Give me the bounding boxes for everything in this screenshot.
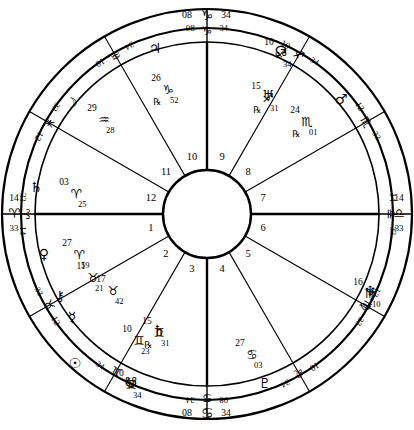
cusp-sign-glyph-house-4: ♋ <box>202 391 213 405</box>
planet-retrograde-saturn2: ℞ <box>144 340 152 350</box>
house-number-2: 2 <box>163 248 168 259</box>
planet-glyph-mars: ♂ <box>335 91 348 107</box>
planet-glyph-mercury: ☿ <box>68 309 77 325</box>
planet-minute-neptune: 10 <box>372 299 381 309</box>
planet-degree-jupiter: 26 <box>151 73 161 83</box>
house-number-4: 4 <box>219 263 225 274</box>
cusp-minute-house-4: 34 <box>185 395 194 405</box>
cusp-degree-house-10: 08 <box>186 23 196 33</box>
planet-minute-northnode: 34 <box>283 59 292 69</box>
planet-glyph-pluto: ♇ <box>259 375 272 391</box>
angle-degree-ascendant: 14 <box>9 193 19 203</box>
planet-retrograde-uranus: ℞ <box>253 105 261 115</box>
planet-degree-saturn: 03 <box>59 177 69 187</box>
planet-minute-pluto: 03 <box>254 360 263 370</box>
angle-sign-ascendant: ♈ <box>8 206 20 221</box>
house-number-1: 1 <box>148 222 153 233</box>
house-number-11: 11 <box>161 166 171 177</box>
planet-minute-mars: 01 <box>309 127 318 137</box>
planet-degree-venus: 27 <box>62 238 72 248</box>
angle-minute-midheaven: 34 <box>221 10 231 20</box>
angle-degree-imum-coeli: 08 <box>182 407 192 418</box>
angle-minute-imum-coeli: 34 <box>221 408 231 418</box>
planet-minute-uranus: 31 <box>270 103 279 113</box>
inner-hub-circle <box>163 170 251 258</box>
planet-degree-neptune: 16 <box>353 277 363 287</box>
house-number-12: 12 <box>146 192 157 203</box>
angle-degree-descendant: 14 <box>394 193 404 203</box>
planet-glyph-jupiter: ♃ <box>149 40 162 56</box>
planet-degree-pluto: 27 <box>235 338 245 348</box>
cusp-degree-house-1: 14 <box>18 226 28 236</box>
planet-retrograde-mars: ℞ <box>292 129 300 139</box>
planet-degree-sun: 10 <box>122 324 132 334</box>
planet-minute-moon: 28 <box>106 125 115 135</box>
planet-glyph-chiron: ⚷ <box>55 288 65 304</box>
cusp-minute-house-10: 34 <box>220 23 229 33</box>
planet-degree-uranus: 15 <box>251 81 261 91</box>
planet-minute-jupiter: 52 <box>170 95 179 105</box>
angle-sign-imum-coeli: ♋ <box>201 405 214 421</box>
cusp-sign-glyph-house-10: ♑ <box>202 24 213 38</box>
planet-degree-moon: 29 <box>87 103 97 113</box>
planet-minute-mercury: 42 <box>115 296 124 306</box>
planet-glyph-moon: ☽ <box>65 95 78 111</box>
house-number-5: 5 <box>245 248 250 259</box>
planet-minute-chiron: 21 <box>95 283 104 293</box>
chart-wheel-svg: 14♈3312♉3310♊3408♋3410♌3412♍3314♎3312♏33… <box>0 0 414 430</box>
planet-minute-saturn2: 31 <box>161 338 170 348</box>
planet-degree-saturn2: 15 <box>142 316 152 326</box>
planet-glyph-venus: ♀ <box>39 246 49 262</box>
planet-glyph-sun: ☉ <box>69 355 82 371</box>
house-number-9: 9 <box>219 151 224 162</box>
planet-minute-saturn: 25 <box>78 199 87 209</box>
house-number-6: 6 <box>260 222 265 233</box>
house-number-7: 7 <box>260 192 265 203</box>
planet-degree-mars: 24 <box>290 105 300 115</box>
cusp-degree-house-4: 08 <box>219 395 229 405</box>
angle-sign-descendant: ♎ <box>393 206 405 221</box>
house-number-10: 10 <box>187 151 198 162</box>
astrology-chart-wheel: 14♈3312♉3310♊3408♋3410♌3412♍3314♎3312♏33… <box>0 0 414 430</box>
planet-minute-southnode: 34 <box>133 390 142 400</box>
house-number-3: 3 <box>189 263 194 274</box>
angle-minute-ascendant: 33 <box>10 223 20 233</box>
angle-degree-midheaven: 08 <box>182 9 192 20</box>
cusp-minute-house-1: 33 <box>18 193 28 202</box>
planet-minute-venus: 59 <box>81 260 90 270</box>
house-number-8: 8 <box>245 166 250 177</box>
planet-glyph-saturn: ♄ <box>30 179 43 195</box>
angle-minute-descendant: 33 <box>395 223 405 233</box>
planet-degree-northnode: 10 <box>264 37 274 47</box>
angle-sign-midheaven: ♑ <box>201 7 214 23</box>
planet-degree-southnode: 10 <box>114 368 124 378</box>
planet-retrograde-jupiter: ℞ <box>153 97 161 107</box>
